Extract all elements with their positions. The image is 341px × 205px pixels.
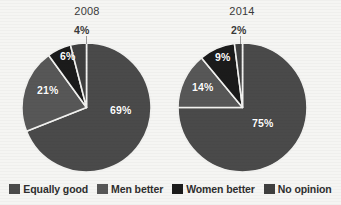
legend-item-men-better[interactable]: Men better bbox=[97, 183, 163, 195]
figure-title-remnant bbox=[0, 0, 341, 3]
slice-label-2008-men-better: 21% bbox=[37, 84, 58, 96]
chart-title-2008: 2008 bbox=[47, 5, 127, 17]
pie-slices-2008 bbox=[22, 43, 151, 172]
legend-item-women-better[interactable]: Women better bbox=[172, 183, 255, 195]
pie-chart-figure: 2008 2014 69% 21% 6% 4% 75% 14% 9% 2% Eq… bbox=[0, 0, 341, 205]
pie-chart-2014 bbox=[177, 42, 308, 173]
slice-label-2008-equally-good: 69% bbox=[110, 104, 131, 116]
legend-item-equally-good[interactable]: Equally good bbox=[9, 183, 88, 195]
chart-legend: Equally goodMen betterWomen betterNo opi… bbox=[0, 181, 341, 197]
slice-label-2014-equally-good: 75% bbox=[252, 117, 273, 129]
pie-chart-2008 bbox=[21, 42, 152, 173]
legend-swatch-icon-equally-good bbox=[9, 184, 20, 194]
legend-label: Equally good bbox=[23, 183, 88, 195]
legend-label: Women better bbox=[186, 183, 255, 195]
pie-slices-2014 bbox=[178, 43, 307, 172]
slice-label-2014-no-opinion: 2% bbox=[231, 24, 246, 36]
legend-label: No opinion bbox=[278, 183, 332, 195]
leader-line-2014-no-opinion bbox=[240, 36, 241, 44]
legend-item-no-opinion[interactable]: No opinion bbox=[264, 183, 332, 195]
legend-swatch-icon-women-better bbox=[172, 184, 183, 194]
leader-line-2008-no-opinion bbox=[86, 36, 87, 44]
slice-label-2008-women-better: 6% bbox=[60, 50, 75, 62]
slice-label-2014-women-better: 9% bbox=[215, 51, 230, 63]
legend-swatch-icon-no-opinion bbox=[264, 184, 275, 194]
legend-label: Men better bbox=[111, 183, 163, 195]
legend-swatch-icon-men-better bbox=[97, 184, 108, 194]
pie-svg-2014 bbox=[177, 42, 308, 173]
chart-title-2014: 2014 bbox=[202, 5, 282, 17]
slice-label-2014-men-better: 14% bbox=[192, 81, 213, 93]
pie-svg-2008 bbox=[21, 42, 152, 173]
slice-label-2008-no-opinion: 4% bbox=[74, 24, 89, 36]
